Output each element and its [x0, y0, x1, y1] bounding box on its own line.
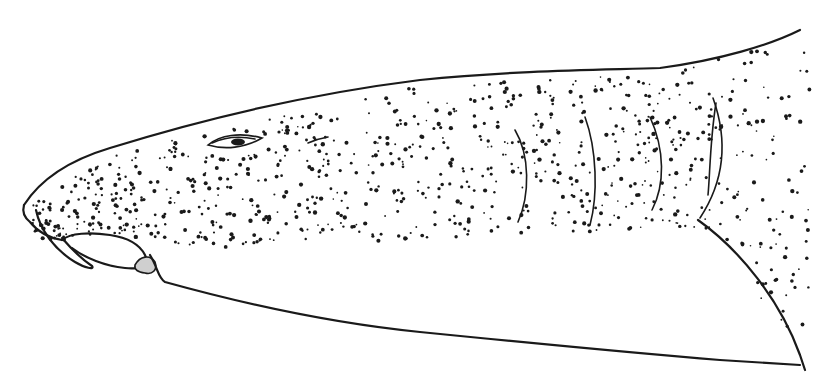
mouth-fold [62, 233, 146, 268]
ventral-outline [150, 255, 800, 365]
gill-slit-2 [585, 117, 595, 225]
eye-icon [208, 135, 262, 148]
stipple-dots [31, 49, 811, 328]
gill-slit-3 [650, 117, 662, 210]
pectoral-fin-edge [698, 220, 805, 370]
shark-head-illustration [0, 0, 821, 387]
dorsal-outline [24, 30, 800, 205]
